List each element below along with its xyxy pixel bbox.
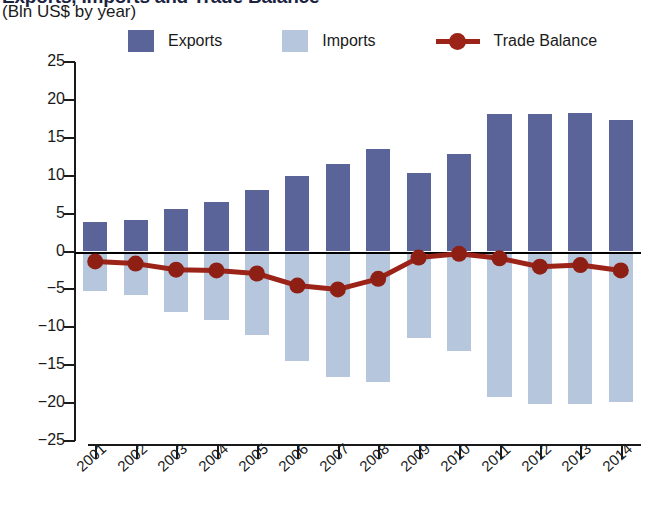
y-tick-mark [64,440,75,442]
y-tick-label: −15 [38,355,65,373]
legend-spacer-2 [376,41,436,42]
y-tick-label: −25 [38,431,65,449]
bar-exports [164,209,188,251]
legend-swatch-exports [128,30,154,52]
y-tick-mark [64,61,75,63]
bar-imports [487,252,511,398]
legend-line-dot [449,33,466,50]
bar-exports [204,202,228,251]
bar-imports [164,252,188,313]
y-tick-label: 20 [47,90,65,108]
bar-imports [528,252,552,404]
bar-exports [447,154,471,251]
bar-imports [285,252,309,361]
bar-exports [609,120,633,252]
y-tick-label: −20 [38,393,65,411]
y-tick-mark [64,288,75,290]
y-tick-mark [64,99,75,101]
y-tick-mark [64,213,75,215]
y-tick-mark [64,402,75,404]
y-tick-mark [64,326,75,328]
y-tick-label: −5 [47,279,65,297]
bar-exports [407,173,431,252]
bar-exports [568,113,592,252]
y-tick-mark [64,175,75,177]
bar-imports [124,252,148,296]
y-tick-label: −10 [38,317,65,335]
chart-legend: Exports Imports Trade Balance [128,30,597,52]
bar-exports [528,114,552,252]
bar-imports [245,252,269,335]
bar-exports [285,176,309,251]
bar-imports [609,252,633,402]
y-tick-mark [64,251,75,253]
bar-imports [407,252,431,338]
legend-label-exports: Exports [168,32,222,50]
legend-item-trade-balance: Trade Balance [436,30,597,52]
bar-imports [326,252,350,378]
legend-line-marker-icon [436,30,480,52]
bar-imports [366,252,390,382]
y-tick-mark [64,137,75,139]
bar-exports [487,114,511,252]
bar-exports [245,190,269,251]
bar-imports [204,252,228,320]
trade-balance-chart: Exports, Imports and Trade Balance (Bln … [0,0,666,506]
bar-exports [83,222,107,252]
legend-swatch-imports [282,30,308,52]
bar-exports [124,220,148,252]
legend-label-imports: Imports [322,32,375,50]
y-tick-mark [64,364,75,366]
zero-baseline [75,252,641,254]
y-tick-label: 25 [47,52,65,70]
legend-label-trade-balance: Trade Balance [494,32,597,50]
legend-item-imports: Imports [282,30,375,52]
bar-exports [366,149,390,251]
y-tick-label: 15 [47,128,65,146]
bar-imports [568,252,592,404]
chart-subtitle: (Bln US$ by year) [2,2,136,22]
plot-area: 2520151050−5−10−15−20−25 [75,62,641,441]
y-tick-label: 10 [47,166,65,184]
bar-imports [83,252,107,291]
legend-item-exports: Exports [128,30,222,52]
legend-spacer-1 [222,41,282,42]
bar-imports [447,252,471,351]
bar-exports [326,164,350,252]
